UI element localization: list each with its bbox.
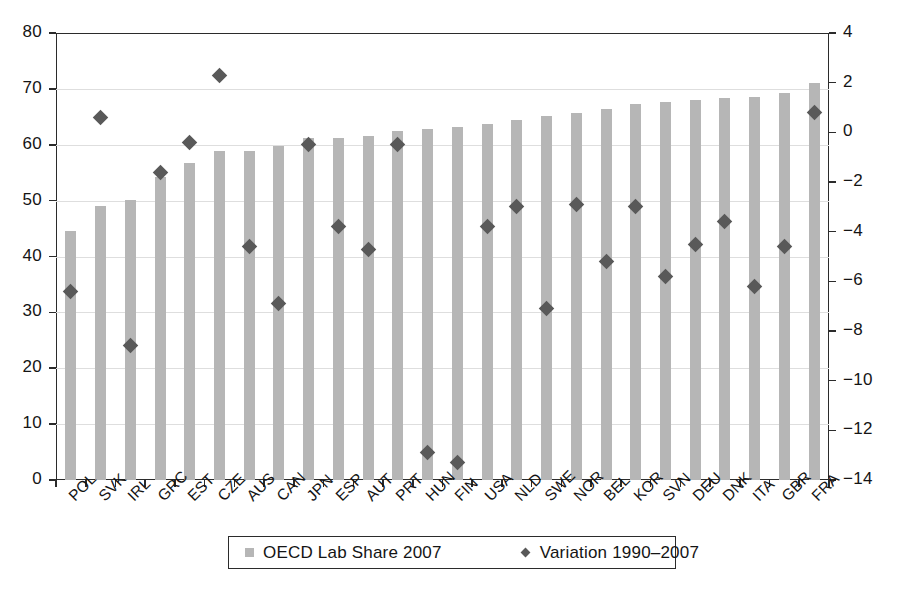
y-tick-label-right: 2 xyxy=(843,72,853,92)
gridline xyxy=(56,257,829,258)
y-tick-label-right: 0 xyxy=(843,121,853,141)
y-tick-left xyxy=(49,423,56,425)
bar xyxy=(65,231,76,480)
y-tick-label-left: 40 xyxy=(22,246,42,266)
y-tick-label-left: 60 xyxy=(22,134,42,154)
legend-label-scatter-series: Variation 1990–2007 xyxy=(540,543,699,563)
bar xyxy=(392,131,403,480)
y-tick-right xyxy=(829,132,836,134)
y-tick-right xyxy=(829,231,836,233)
y-tick-label-right: −4 xyxy=(843,221,863,241)
bar xyxy=(779,93,790,480)
bar xyxy=(303,138,314,480)
bar xyxy=(184,163,195,480)
y-tick-label-right: −10 xyxy=(843,370,873,390)
y-tick-label-left: 80 xyxy=(22,22,42,42)
y-tick-left xyxy=(49,32,56,34)
y-tick-label-right: −14 xyxy=(843,469,873,489)
gridline xyxy=(56,312,829,313)
bar xyxy=(660,102,671,480)
y-tick-left xyxy=(49,367,56,369)
y-tick-right xyxy=(829,181,836,183)
bar xyxy=(363,136,374,480)
gridline xyxy=(56,368,829,369)
bar xyxy=(511,120,522,480)
legend-item-bar-series: OECD Lab Share 2007 xyxy=(245,543,442,563)
square-marker-icon xyxy=(245,548,254,557)
bar xyxy=(422,129,433,480)
bar xyxy=(571,113,582,480)
y-tick-label-right: −6 xyxy=(843,270,863,290)
y-tick-right xyxy=(829,430,836,432)
y-tick-label-left: 50 xyxy=(22,190,42,210)
y-tick-right xyxy=(829,281,836,283)
gridline xyxy=(56,201,829,202)
diamond-marker-icon xyxy=(520,548,530,558)
gridline xyxy=(56,424,829,425)
y-tick-label-left: 10 xyxy=(22,413,42,433)
y-tick-label-left: 30 xyxy=(22,301,42,321)
legend-label-bar-series: OECD Lab Share 2007 xyxy=(263,543,442,563)
bar xyxy=(809,83,820,480)
y-tick-right xyxy=(829,380,836,382)
bar xyxy=(333,138,344,480)
bar xyxy=(244,151,255,480)
y-tick-right xyxy=(829,330,836,332)
y-tick-right xyxy=(829,82,836,84)
y-tick-left xyxy=(49,312,56,314)
gridline xyxy=(56,145,829,146)
bar xyxy=(155,177,166,480)
bar xyxy=(95,206,106,480)
bar xyxy=(719,98,730,480)
bar xyxy=(273,146,284,480)
bar xyxy=(690,100,701,480)
y-tick-left xyxy=(49,144,56,146)
y-tick-label-left: 70 xyxy=(22,78,42,98)
chart-figure: 01020304050607080 −14−12−10−8−6−4−2024 P… xyxy=(0,0,911,590)
y-tick-label-left: 20 xyxy=(22,357,42,377)
bar xyxy=(541,116,552,480)
y-tick-label-right: −2 xyxy=(843,171,863,191)
y-tick-right xyxy=(829,32,836,34)
y-tick-label-right: −8 xyxy=(843,320,863,340)
chart-legend: OECD Lab Share 2007 Variation 1990–2007 xyxy=(228,536,676,569)
y-tick-left xyxy=(49,200,56,202)
legend-item-scatter-series: Variation 1990–2007 xyxy=(520,543,699,563)
y-tick-left xyxy=(49,256,56,258)
bar xyxy=(601,109,612,480)
bar xyxy=(482,124,493,480)
x-tick xyxy=(55,480,57,487)
y-tick-label-right: −12 xyxy=(843,419,873,439)
y-tick-label-right: 4 xyxy=(843,22,853,42)
y-tick-label-left: 0 xyxy=(32,469,42,489)
bar xyxy=(630,104,641,480)
gridline xyxy=(56,89,829,90)
bar xyxy=(214,151,225,480)
bar xyxy=(452,127,463,480)
y-tick-left xyxy=(49,88,56,90)
